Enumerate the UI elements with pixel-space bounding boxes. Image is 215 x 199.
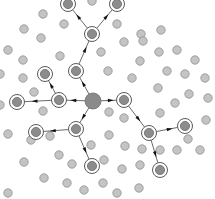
passive-node (30, 88, 38, 96)
passive-node (87, 141, 95, 149)
active-node (85, 27, 100, 42)
passive-node (156, 109, 164, 117)
passive-node (37, 34, 45, 42)
passive-node (118, 165, 126, 173)
active-node (29, 125, 44, 140)
passive-node (181, 70, 189, 78)
active-node (61, 0, 76, 12)
active-node (142, 126, 157, 141)
active-node (10, 95, 25, 110)
passive-node (202, 116, 210, 124)
passive-node (120, 114, 128, 122)
passive-node (139, 37, 147, 45)
passive-node (191, 56, 199, 64)
source-node (85, 93, 101, 109)
active-node (110, 0, 125, 12)
passive-node (4, 189, 12, 197)
passive-node (39, 107, 47, 115)
passive-node (171, 99, 179, 107)
passive-node (135, 184, 143, 192)
passive-node (97, 48, 105, 56)
passive-node (113, 189, 121, 197)
passive-node (185, 90, 193, 98)
passive-node (63, 179, 71, 187)
passive-node (104, 67, 112, 75)
active-node (153, 163, 168, 178)
passive-node (60, 20, 68, 28)
passive-node (19, 56, 27, 64)
passive-node (163, 67, 171, 75)
passive-node (39, 10, 47, 18)
active-node (85, 159, 100, 174)
passive-node (121, 142, 129, 150)
passive-node (68, 160, 76, 168)
background (0, 0, 215, 199)
passive-node (4, 130, 12, 138)
active-node (38, 67, 53, 82)
passive-node (173, 46, 181, 54)
passive-node (196, 146, 204, 154)
active-node (69, 64, 84, 79)
passive-node (157, 26, 165, 34)
passive-node (138, 145, 146, 153)
passive-node (204, 94, 212, 102)
passive-node (128, 74, 136, 82)
passive-node (56, 52, 64, 60)
passive-node (4, 46, 12, 54)
passive-node (46, 132, 54, 140)
passive-node (55, 151, 63, 159)
passive-node (201, 74, 209, 82)
passive-node (136, 161, 144, 169)
passive-node (19, 74, 27, 82)
passive-node (120, 38, 128, 46)
passive-node (154, 84, 162, 92)
active-node (178, 119, 193, 134)
passive-node (136, 57, 144, 65)
active-node (69, 122, 84, 137)
passive-node (20, 25, 28, 33)
passive-node (88, 0, 96, 5)
passive-node (105, 131, 113, 139)
passive-node (156, 146, 164, 154)
passive-node (80, 186, 88, 194)
passive-node (99, 179, 107, 187)
source-node (85, 93, 101, 109)
active-node (117, 93, 132, 108)
passive-node (100, 156, 108, 164)
passive-node (40, 174, 48, 182)
passive-node (173, 146, 181, 154)
passive-node (184, 135, 192, 143)
passive-node (113, 20, 121, 28)
active-node (52, 93, 67, 108)
passive-node (105, 108, 113, 116)
passive-node (20, 158, 28, 166)
passive-node (155, 48, 163, 56)
network-diagram (0, 0, 215, 199)
